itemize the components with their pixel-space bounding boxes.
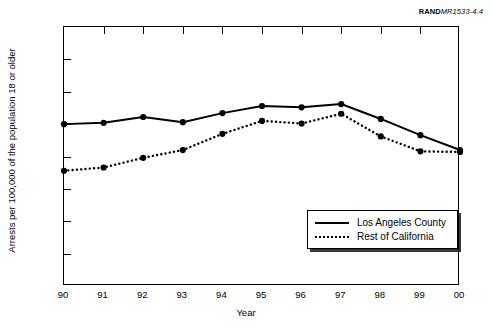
data-point-marker: [140, 155, 146, 161]
data-point-marker: [378, 133, 384, 139]
data-point-marker: [299, 104, 305, 110]
data-point-marker: [457, 149, 463, 155]
x-axis-tick-label: 92: [137, 289, 148, 300]
x-axis-tick-mark: [262, 27, 263, 34]
x-axis-tick-label: 00: [454, 289, 465, 300]
y-axis-tick-mark: [64, 221, 71, 222]
y-axis-tick-mark: [64, 92, 71, 93]
legend-swatch-dotted-line-icon: [315, 231, 349, 241]
source-identifier-brand: RAND: [419, 7, 441, 16]
x-axis-tick-mark: [104, 27, 105, 34]
data-point-marker: [417, 148, 423, 154]
y-axis-tick-mark: [64, 254, 71, 255]
data-point-marker: [338, 111, 344, 117]
x-axis-tick-mark: [381, 27, 382, 34]
y-axis-title: Arrests per 100,000 of the population 18…: [4, 0, 18, 300]
x-axis-tick-mark: [143, 27, 144, 34]
data-point-marker: [338, 101, 344, 107]
x-axis-tick-mark: [302, 27, 303, 34]
x-axis-title: Year: [0, 307, 492, 318]
data-point-marker: [180, 119, 186, 125]
data-point-marker: [259, 103, 265, 109]
x-axis-tick-label: 95: [256, 289, 267, 300]
x-axis-tick-label: 99: [414, 289, 425, 300]
x-axis-tick-label: 93: [177, 289, 188, 300]
x-axis-tick-label: 98: [375, 289, 386, 300]
data-point-marker: [61, 168, 67, 174]
data-point-marker: [417, 132, 423, 138]
chart-legend: Los Angeles County Rest of California: [307, 210, 458, 249]
source-identifier: RANDMR1533-4.4: [419, 7, 483, 16]
y-axis-title-text: Arrests per 100,000 of the population 18…: [6, 48, 17, 252]
data-point-marker: [180, 147, 186, 153]
source-identifier-number: MR1533-4.4: [441, 7, 483, 16]
y-axis-tick-mark: [64, 124, 71, 125]
data-point-marker: [259, 118, 265, 124]
data-point-marker: [219, 131, 225, 137]
x-axis-tick-mark: [420, 27, 421, 34]
legend-swatch-solid-line-icon: [315, 217, 349, 227]
data-point-marker: [219, 110, 225, 116]
x-axis-tick-mark: [183, 27, 184, 34]
chart-figure: RANDMR1533-4.4 Arrests per 100,000 of th…: [0, 0, 492, 329]
y-axis-tick-mark: [64, 59, 71, 60]
x-axis-tick-label: 91: [97, 289, 108, 300]
x-axis-tick-label: 97: [335, 289, 346, 300]
x-axis-tick-mark: [341, 27, 342, 34]
legend-label-rest-of-california: Rest of California: [357, 231, 434, 242]
x-axis-title-text: Year: [236, 307, 255, 318]
x-axis-tick-label: 96: [295, 289, 306, 300]
data-point-marker: [299, 120, 305, 126]
data-point-marker: [140, 114, 146, 120]
x-axis-tick-label: 94: [216, 289, 227, 300]
y-axis-tick-mark: [64, 157, 71, 158]
data-point-marker: [101, 120, 107, 126]
x-axis-tick-label: 90: [58, 289, 69, 300]
y-axis-tick-mark: [64, 189, 71, 190]
legend-label-la-county: Los Angeles County: [357, 217, 446, 228]
legend-item-la-county: Los Angeles County: [315, 215, 450, 229]
data-point-marker: [378, 116, 384, 122]
data-point-marker: [101, 164, 107, 170]
x-axis-tick-mark: [222, 27, 223, 34]
legend-item-rest-of-california: Rest of California: [315, 229, 450, 243]
